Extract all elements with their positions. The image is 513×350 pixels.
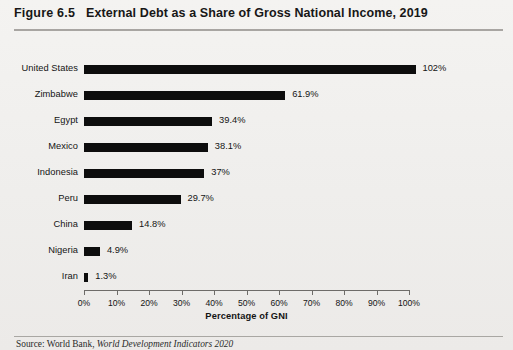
category-label: Egypt [0, 116, 78, 125]
source-prefix: Source: [16, 339, 45, 349]
x-axis-tick-label: 0% [78, 298, 90, 308]
bar-row: Nigeria4.9% [0, 238, 513, 264]
bar-track: 37% [84, 160, 513, 186]
source-divider [14, 336, 503, 337]
x-axis-tick-label: 60% [270, 298, 287, 308]
x-axis: 0%10%20%30%40%50%60%70%80%90%100% [84, 290, 409, 291]
bar-chart: United States102%Zimbabwe61.9%Egypt39.4%… [0, 36, 513, 321]
bar [84, 247, 100, 256]
x-axis-tick [149, 290, 150, 295]
category-label: China [0, 220, 78, 229]
x-axis-tick [117, 290, 118, 295]
category-label: Iran [0, 272, 78, 281]
x-axis-tick-label: 50% [238, 298, 255, 308]
x-axis-tick [84, 290, 85, 295]
bar-row: Zimbabwe61.9% [0, 82, 513, 108]
figure-number: Figure 6.5 [14, 6, 75, 20]
bar [84, 195, 181, 204]
bar-track: 14.8% [84, 212, 513, 238]
bar-track: 1.3% [84, 264, 513, 290]
bar [84, 169, 204, 178]
bar-row: Indonesia37% [0, 160, 513, 186]
source-publisher: World Bank, [47, 339, 95, 349]
bar-row: Peru29.7% [0, 186, 513, 212]
x-axis-tick-label: 10% [108, 298, 125, 308]
bar-track: 39.4% [84, 108, 513, 134]
source-work: World Development Indicators 2020 [97, 339, 233, 349]
x-axis-tick-label: 20% [140, 298, 157, 308]
category-label: Mexico [0, 142, 78, 151]
bar-track: 61.9% [84, 82, 513, 108]
bar-value-label: 61.9% [292, 90, 318, 99]
bar-row: Egypt39.4% [0, 108, 513, 134]
bar-value-label: 29.7% [188, 194, 214, 203]
bar [84, 221, 132, 230]
x-axis-tick-label: 100% [398, 298, 420, 308]
bar-track: 38.1% [84, 134, 513, 160]
x-axis-tick [312, 290, 313, 295]
x-axis-tick-label: 40% [205, 298, 222, 308]
bar [84, 143, 208, 152]
bar-value-label: 37% [211, 168, 230, 177]
category-label: Indonesia [0, 168, 78, 177]
x-axis-tick-label: 80% [335, 298, 352, 308]
bar [84, 91, 285, 100]
bar-row: United States102% [0, 56, 513, 82]
bar-row: Iran1.3% [0, 264, 513, 290]
x-axis-tick [409, 290, 410, 295]
figure-title-row: Figure 6.5 External Debt as a Share of G… [14, 6, 503, 20]
bar-value-label: 102% [423, 64, 447, 73]
bar-value-label: 14.8% [139, 220, 165, 229]
bar-row: China14.8% [0, 212, 513, 238]
x-axis-tick [214, 290, 215, 295]
bar-value-label: 39.4% [219, 116, 245, 125]
bar-value-label: 4.9% [107, 246, 128, 255]
bar-rows: United States102%Zimbabwe61.9%Egypt39.4%… [0, 56, 513, 290]
x-axis-tick-label: 90% [368, 298, 385, 308]
figure-title: External Debt as a Share of Gross Nation… [86, 6, 428, 20]
bar-value-label: 1.3% [95, 272, 116, 281]
figure-container: Figure 6.5 External Debt as a Share of G… [0, 0, 513, 350]
bar-track: 4.9% [84, 238, 513, 264]
x-axis-title: Percentage of GNI [84, 311, 409, 321]
bar [84, 65, 416, 74]
bar [84, 273, 88, 282]
category-label: Peru [0, 194, 78, 203]
x-axis-tick [182, 290, 183, 295]
x-axis-tick [279, 290, 280, 295]
x-axis-tick [247, 290, 248, 295]
category-label: Nigeria [0, 246, 78, 255]
bar-value-label: 38.1% [215, 142, 241, 151]
x-axis-tick-label: 70% [303, 298, 320, 308]
bar [84, 117, 212, 126]
title-divider [14, 29, 503, 31]
source-note: Source: World Bank, World Development In… [16, 339, 233, 349]
x-axis-tick [377, 290, 378, 295]
bar-track: 29.7% [84, 186, 513, 212]
category-label: Zimbabwe [0, 90, 78, 99]
x-axis-tick-label: 30% [173, 298, 190, 308]
category-label: United States [0, 64, 78, 73]
bar-row: Mexico38.1% [0, 134, 513, 160]
bar-track: 102% [84, 56, 513, 82]
x-axis-tick [344, 290, 345, 295]
